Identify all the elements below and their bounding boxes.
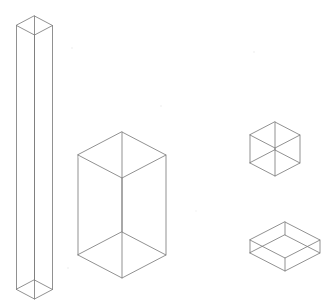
speck-mid-left [78, 156, 80, 158]
speck-lower-left [67, 267, 69, 269]
speck-upper-right [253, 51, 255, 53]
shapes-layer [17, 16, 321, 299]
isometric-scene [0, 0, 331, 306]
medium-box [78, 132, 166, 278]
speck-upper-center [160, 105, 162, 107]
speck-mid-right [195, 210, 197, 212]
drawing-canvas [0, 0, 331, 306]
tall-column [17, 16, 53, 299]
speck-upper-left [71, 47, 73, 49]
flat-slab [250, 222, 320, 271]
small-cube [250, 122, 300, 176]
